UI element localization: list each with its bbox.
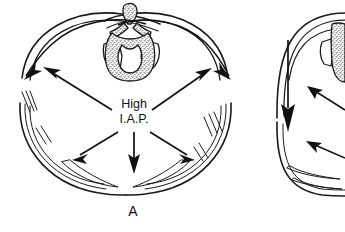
radial-arrow-upper-right-shaft [152,73,205,110]
hatch-mark [194,147,203,161]
radial-arrow-upper-left [43,67,112,110]
muscle-hatching-mid-left [36,126,51,144]
panel-b [277,13,345,196]
hatch-mark [204,117,212,136]
panel-a-letter: A [128,203,138,219]
panel-b-vertebral-body [331,23,345,82]
radial-arrow-lower-left [72,132,118,164]
radial-arrow-lower-right-head [179,154,195,164]
vertebral-body [105,33,155,81]
hatch-mark [41,126,51,142]
abdominal-cross-section-illustration: High I.A.P. A [0,0,345,232]
hatch-mark [22,92,30,112]
panel-b-radial-arrow-upper [307,86,345,110]
panel-b-radial-arrow-upper-shaft [315,91,345,110]
rectus-lens-left [62,160,118,187]
radial-arrow-lower-left-shaft [80,132,118,155]
radial-arrow-lower-left-head [72,154,88,164]
radial-arrow-lower-right [150,132,195,164]
hatch-mark [30,91,37,110]
panel-a: High I.A.P. A [20,3,231,219]
radial-arrow-upper-left-shaft [51,72,112,110]
center-label-line1: High [121,97,147,111]
vertebra-group [103,3,159,81]
panel-b-rectus-lens-upper [287,166,340,179]
panel-b-radial-arrow-upper-head [307,86,323,99]
lower-wall-inner-right [147,106,221,184]
panel-b-radial-arrow-lower-shaft [315,145,345,158]
figure-root: High I.A.P. A [0,0,345,232]
radial-arrow-upper-right [152,68,212,110]
panel-b-radial-arrow-lower [306,141,345,158]
rectus-lens-right [133,160,189,187]
center-label-line2: I.A.P. [120,112,149,126]
radial-arrow-down [128,132,140,174]
lower-wall-inner-left [30,106,104,184]
radial-arrow-lower-right-shaft [150,132,187,155]
